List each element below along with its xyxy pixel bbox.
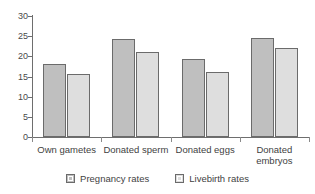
chart-legend: Pregnancy rates Livebirth rates — [0, 174, 315, 184]
legend-label-livebirth-rates: Livebirth rates — [189, 174, 249, 184]
bar-pregnancy-0 — [43, 64, 66, 137]
y-tick-label: 25 — [18, 32, 28, 41]
legend-swatch-icon-livebirth-rates — [175, 174, 184, 183]
bar-livebirth-2 — [206, 72, 229, 137]
bar-livebirth-0 — [67, 74, 90, 137]
y-tick-mark — [28, 56, 32, 57]
y-tick-label: 0 — [23, 133, 28, 142]
category-label-1: Donated sperm — [101, 144, 170, 155]
bar-chart: 051015202530 Own gametesDonated spermDon… — [0, 0, 315, 194]
y-tick-label: 15 — [18, 72, 28, 81]
y-tick-mark — [28, 77, 32, 78]
category-label-3: Donated embryos — [240, 144, 309, 166]
y-tick-mark — [28, 36, 32, 37]
x-tick-mark — [171, 137, 172, 142]
x-tick-mark — [101, 137, 102, 142]
category-label-2: Donated eggs — [171, 144, 240, 155]
y-tick-label: 10 — [18, 92, 28, 101]
x-tick-mark — [309, 137, 310, 142]
legend-swatch-icon-pregnancy-rates — [66, 174, 75, 183]
legend-item-livebirth-rates: Livebirth rates — [175, 174, 249, 184]
y-tick-label: 20 — [18, 52, 28, 61]
category-label-0: Own gametes — [32, 144, 101, 155]
bar-livebirth-3 — [275, 48, 298, 137]
y-tick-label: 30 — [18, 12, 28, 21]
legend-item-pregnancy-rates: Pregnancy rates — [66, 174, 149, 184]
y-tick-label: 5 — [23, 112, 28, 121]
y-tick-mark — [28, 16, 32, 17]
bar-pregnancy-3 — [251, 38, 274, 137]
plot-area: 051015202530 — [32, 16, 309, 137]
legend-label-pregnancy-rates: Pregnancy rates — [80, 174, 149, 184]
bar-pregnancy-2 — [182, 59, 205, 137]
bar-pregnancy-1 — [112, 39, 135, 137]
x-tick-mark — [32, 137, 33, 142]
x-tick-mark — [240, 137, 241, 142]
y-tick-mark — [28, 117, 32, 118]
bar-livebirth-1 — [136, 52, 159, 137]
y-tick-mark — [28, 97, 32, 98]
